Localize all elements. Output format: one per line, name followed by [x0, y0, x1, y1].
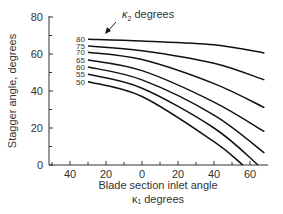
series-line-75	[88, 46, 264, 80]
y-tick-label: 0	[37, 159, 43, 171]
series-label-50: 50	[76, 78, 85, 87]
axes: 02040608040200204060	[31, 11, 268, 180]
y-axis-title: Stagger angle, degrees	[6, 33, 18, 148]
curves	[88, 39, 264, 165]
annotation-text: degrees	[131, 8, 174, 20]
x-axis-title-line2: κ₁ degrees	[132, 193, 185, 205]
y-tick-label: 80	[31, 11, 43, 23]
x-tick-label: 40	[64, 168, 76, 180]
annotation-label: κ2 degrees	[122, 8, 175, 22]
x-axis-title: Blade section inlet angle	[98, 179, 217, 191]
annotation-arrow	[105, 22, 116, 34]
y-tick-label: 20	[31, 122, 43, 134]
y-tick-label: 40	[31, 85, 43, 97]
y-tick-label: 60	[31, 48, 43, 60]
chart: 02040608040200204060 80757065605550 Stag…	[0, 0, 283, 214]
series-line-80	[88, 39, 264, 53]
x-tick-label: 60	[244, 168, 256, 180]
series-labels: 80757065605550	[76, 35, 85, 87]
series-line-55	[88, 74, 258, 165]
series-line-50	[88, 82, 243, 165]
